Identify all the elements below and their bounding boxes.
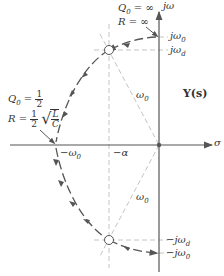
guide-lines — [94, 24, 168, 268]
top-q-condition: Q0 = ∞ — [118, 3, 154, 16]
j-omega-axis-label: jω — [163, 1, 174, 11]
neg-j-omega0-label: −jω0 — [166, 248, 190, 261]
left-annotation-pointer — [40, 130, 54, 143]
upper-pole-marker — [105, 46, 114, 55]
top-r-condition: R = ∞ — [118, 17, 149, 27]
arrow-icon — [58, 180, 64, 187]
neg-omega0-label: −ω0 — [60, 148, 81, 161]
j-omega0-label: jω0 — [170, 31, 186, 44]
lower-pole-marker — [105, 236, 114, 245]
neg-alpha-label: −α — [113, 148, 128, 158]
upper-radius-label: ω0 — [136, 90, 149, 103]
origin-dot — [157, 143, 161, 147]
top-annotation-pointer — [146, 27, 157, 36]
sigma-axis-label: σ — [214, 138, 221, 148]
upper-locus — [109, 37, 156, 50]
lower-locus — [56, 148, 109, 240]
root-locus-diagram — [0, 0, 224, 276]
left-q-condition: Q0 = 12 — [8, 90, 43, 109]
figure-title: Y(s) — [183, 88, 207, 99]
arrow-icon — [53, 159, 59, 166]
arrow-icon — [81, 72, 88, 78]
lower-radius-label: ω0 — [136, 192, 149, 205]
j-omega-d-label: jωd — [170, 45, 186, 58]
left-r-condition: R = 12 √LC — [8, 109, 59, 129]
